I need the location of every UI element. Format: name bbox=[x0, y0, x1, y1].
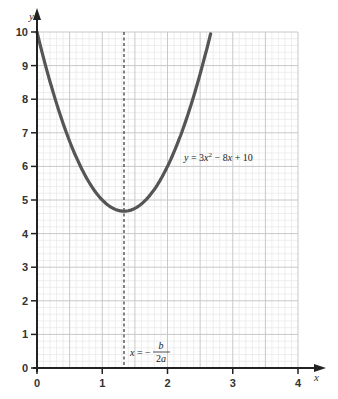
x-axis-label: x bbox=[313, 371, 319, 383]
curve-equation-label: y = 3x2 − 8x + 10 bbox=[183, 151, 253, 163]
y-tick-label: 6 bbox=[22, 160, 28, 172]
y-tick-label: 3 bbox=[22, 261, 28, 273]
x-tick-label: 4 bbox=[295, 377, 302, 389]
y-tick-label: 2 bbox=[22, 295, 28, 307]
y-tick-label: 1 bbox=[22, 328, 28, 340]
y-tick-label: 0 bbox=[22, 362, 28, 374]
axes bbox=[31, 8, 326, 374]
svg-text:x = −: x = − bbox=[129, 347, 151, 358]
svg-text:2a: 2a bbox=[156, 353, 166, 364]
y-axis-label: y bbox=[28, 10, 34, 22]
parabola-chart: 01234567891001234 y x y = 3x2 − 8x + 10 … bbox=[0, 0, 338, 399]
y-tick-label: 10 bbox=[16, 26, 28, 38]
x-tick-label: 2 bbox=[164, 377, 170, 389]
x-tick-label: 3 bbox=[230, 377, 236, 389]
y-tick-label: 7 bbox=[22, 127, 28, 139]
y-tick-label: 8 bbox=[22, 93, 28, 105]
x-tick-label: 0 bbox=[34, 377, 40, 389]
y-tick-label: 5 bbox=[22, 194, 28, 206]
y-tick-label: 9 bbox=[22, 60, 28, 72]
x-tick-label: 1 bbox=[99, 377, 105, 389]
y-tick-label: 4 bbox=[22, 228, 29, 240]
svg-text:b: b bbox=[159, 340, 164, 351]
